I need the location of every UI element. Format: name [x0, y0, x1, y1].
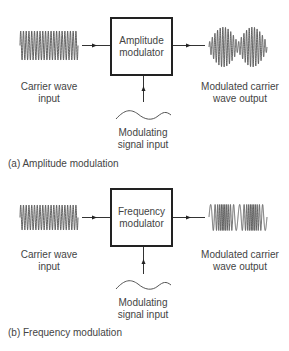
carrier-wave-icon: [20, 31, 78, 60]
modulator-label-line1: Frequency: [118, 206, 165, 218]
carrier-wave-input-label: Carrier wave input: [8, 81, 90, 105]
label-line: Modulated carrier: [190, 81, 289, 93]
label-line: Modulated carrier: [190, 249, 289, 261]
label-line: signal input: [103, 309, 183, 321]
modulator-label-line2: modulator: [118, 218, 165, 230]
modulating-signal-wave-icon: [116, 111, 171, 119]
signal-arrow-icon: [142, 75, 146, 102]
output-arrow-icon: [173, 216, 205, 220]
input-arrow-icon: [82, 216, 110, 220]
output-arrow-icon: [173, 44, 205, 48]
am-caption: (a) Amplitude modulation: [8, 158, 119, 170]
carrier-wave-icon: [20, 205, 78, 230]
fm-diagram: Frequency modulator Carrier wave input M…: [0, 175, 289, 351]
label-line: Carrier wave: [8, 81, 90, 93]
carrier-wave-input-label: Carrier wave input: [8, 249, 90, 273]
label-line: input: [8, 93, 90, 105]
modulated-output-label: Modulated carrier wave output: [190, 81, 289, 105]
input-arrow-icon: [82, 44, 110, 48]
label-line: Carrier wave: [8, 249, 90, 261]
label-line: signal input: [103, 139, 183, 151]
label-line: wave output: [190, 93, 289, 105]
modulating-signal-wave-icon: [116, 281, 171, 289]
am-output-wave-icon: [209, 27, 267, 67]
label-line: Modulating: [103, 297, 183, 309]
modulated-output-label: Modulated carrier wave output: [190, 249, 289, 273]
label-line: input: [8, 261, 90, 273]
frequency-modulator-box: Frequency modulator: [110, 188, 173, 247]
fm-output-wave-icon: [209, 205, 267, 231]
label-line: Modulating: [103, 127, 183, 139]
signal-arrow-icon: [142, 245, 146, 274]
modulating-signal-label: Modulating signal input: [103, 127, 183, 151]
am-diagram: Amplitude modulator Carrier wave input M…: [0, 0, 289, 175]
label-line: wave output: [190, 261, 289, 273]
modulator-label-line1: Amplitude: [119, 35, 163, 47]
amplitude-modulator-box: Amplitude modulator: [110, 17, 173, 76]
modulating-signal-label: Modulating signal input: [103, 297, 183, 321]
fm-caption: (b) Frequency modulation: [8, 327, 122, 339]
modulator-label-line2: modulator: [119, 47, 163, 59]
